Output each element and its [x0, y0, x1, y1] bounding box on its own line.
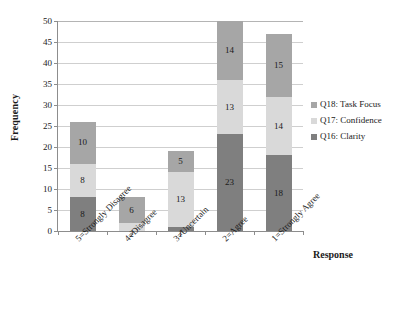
bar-value-label: 15: [274, 61, 283, 70]
bar-segment[interactable]: 14: [217, 21, 243, 80]
x-axis-tick-mark: [254, 231, 255, 235]
x-axis-tick-mark: [156, 231, 157, 235]
bar-segment[interactable]: 2: [119, 223, 145, 231]
bar-value-label: 5: [178, 157, 183, 166]
bar-segment[interactable]: 13: [217, 80, 243, 135]
bar-group[interactable]: 8810: [70, 122, 96, 231]
bar-segment[interactable]: 18: [266, 155, 292, 231]
x-axis-tick-mark: [107, 231, 108, 235]
stacked-bar-chart: Frequency 05101520253035404550 881026113…: [0, 0, 413, 320]
bar-value-label: 13: [176, 195, 185, 204]
legend-item[interactable]: Q18: Task Focus: [311, 100, 382, 109]
bar-value-label: 18: [274, 189, 283, 198]
bar-segment[interactable]: 8: [70, 197, 96, 231]
y-axis-tick-label: 50: [43, 17, 52, 26]
y-axis-tick-label: 0: [48, 227, 53, 236]
y-axis-title: Frequency: [4, 0, 26, 235]
y-axis-title-text: Frequency: [10, 94, 21, 141]
y-axis-tick-label: 40: [43, 59, 52, 68]
x-axis-tick-mark: [303, 231, 304, 235]
bar-segment[interactable]: 10: [70, 122, 96, 164]
x-axis-title: Response: [313, 249, 353, 260]
legend-label: Q16: Clarity: [320, 132, 365, 141]
bar-value-label: 6: [129, 206, 134, 215]
y-axis-tick-label: 25: [43, 122, 52, 131]
y-axis-tick-label: 20: [43, 143, 52, 152]
bar-segment[interactable]: 15: [266, 34, 292, 97]
bar-segment[interactable]: 14: [266, 97, 292, 156]
bar-group[interactable]: 26: [119, 197, 145, 231]
x-axis-category-labels: 5=Strongly Disagree4=Disagree3=Uncertain…: [0, 231, 413, 320]
legend-item[interactable]: Q17: Confidence: [311, 116, 382, 125]
plot-area: 05101520253035404550 8810261135231314181…: [57, 21, 303, 232]
chart-legend: Q18: Task FocusQ17: ConfidenceQ16: Clari…: [311, 100, 382, 141]
legend-swatch-icon: [311, 102, 317, 108]
x-axis-tick-mark: [58, 231, 59, 235]
bar-value-label: 13: [225, 103, 234, 112]
y-axis-tick-label: 5: [48, 206, 53, 215]
bar-value-label: 1: [178, 230, 183, 239]
y-axis-tick-label: 15: [43, 164, 52, 173]
bar-segment[interactable]: 8: [70, 164, 96, 198]
bar-value-label: 10: [78, 138, 87, 147]
bar-segment[interactable]: 6: [119, 197, 145, 222]
y-axis-tick-label: 10: [43, 185, 52, 194]
bar-value-label: 14: [225, 46, 234, 55]
bar-value-label: 8: [80, 176, 85, 185]
bar-segment[interactable]: 1: [168, 227, 194, 231]
bar-value-label: 23: [225, 178, 234, 187]
legend-item[interactable]: Q16: Clarity: [311, 132, 382, 141]
bar-segment[interactable]: 23: [217, 134, 243, 231]
legend-label: Q18: Task Focus: [320, 100, 381, 109]
bars-layer: 8810261135231314181415: [58, 21, 303, 231]
legend-swatch-icon: [311, 134, 317, 140]
bar-group[interactable]: 1135: [168, 151, 194, 231]
bar-value-label: 14: [274, 122, 283, 131]
y-axis-tick-label: 30: [43, 101, 52, 110]
y-axis-tick-label: 45: [43, 38, 52, 47]
bar-segment[interactable]: 13: [168, 172, 194, 227]
bar-value-label: 2: [129, 230, 134, 239]
legend-swatch-icon: [311, 118, 317, 124]
bar-value-label: 8: [80, 210, 85, 219]
bar-group[interactable]: 181415: [266, 34, 292, 231]
y-axis-tick-label: 35: [43, 80, 52, 89]
bar-group[interactable]: 231314: [217, 21, 243, 231]
legend-label: Q17: Confidence: [320, 116, 382, 125]
bar-segment[interactable]: 5: [168, 151, 194, 172]
x-axis-tick-mark: [205, 231, 206, 235]
